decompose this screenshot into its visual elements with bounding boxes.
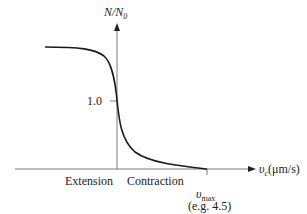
vmax-example: (e.g. 4.5) (188, 200, 231, 212)
y-axis-arrow-icon (114, 23, 120, 31)
x-axis-arrow-icon (248, 166, 256, 172)
y-axis-label: N/N0 (104, 6, 127, 21)
force-velocity-curve (45, 47, 207, 169)
region-extension-label: Extension (65, 175, 113, 187)
region-contraction-label: Contraction (127, 175, 184, 187)
x-axis-label: υc(μm/s) (259, 163, 300, 178)
y-tick-label: 1.0 (87, 95, 102, 107)
